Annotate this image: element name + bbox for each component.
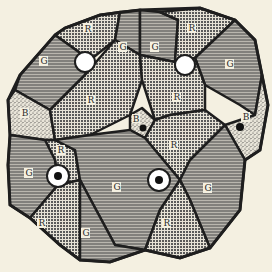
label-g-left-upper: G bbox=[40, 56, 47, 66]
label-g-bottom-mid: G bbox=[82, 228, 89, 238]
label-b-left: B bbox=[22, 108, 29, 118]
label-g-right-lower: G bbox=[204, 183, 211, 193]
region-map-svg: R G G R G G B R R B B R R G G G R G R bbox=[0, 0, 272, 272]
label-r-mid-right: R bbox=[171, 140, 178, 150]
label-g-right-upper: G bbox=[226, 59, 233, 69]
label-g-center-lower: G bbox=[113, 182, 120, 192]
node-top-left bbox=[75, 52, 95, 72]
label-r-top-left: R bbox=[85, 24, 92, 34]
label-g-top-mid: G bbox=[119, 42, 126, 52]
label-r-left-small: R bbox=[58, 145, 65, 155]
node-bottom-mid bbox=[148, 169, 170, 191]
node-bottom-left bbox=[47, 165, 69, 187]
label-g-left-lower: G bbox=[25, 168, 32, 178]
label-b-right: B bbox=[243, 112, 250, 122]
label-r-bottom-left: R bbox=[39, 218, 46, 228]
label-r-center-right: R bbox=[174, 92, 181, 102]
node-center bbox=[140, 125, 147, 132]
node-right bbox=[236, 123, 244, 131]
label-g-top-right-a: G bbox=[151, 42, 158, 52]
label-r-center-left: R bbox=[88, 95, 95, 105]
label-b-center: B bbox=[133, 114, 140, 124]
label-r-top-right: R bbox=[189, 23, 196, 33]
label-r-bottom-right: R bbox=[164, 218, 171, 228]
map-diagram: R G G R G G B R R B B R R G G G R G R bbox=[0, 0, 272, 272]
node-top-right bbox=[175, 55, 195, 75]
